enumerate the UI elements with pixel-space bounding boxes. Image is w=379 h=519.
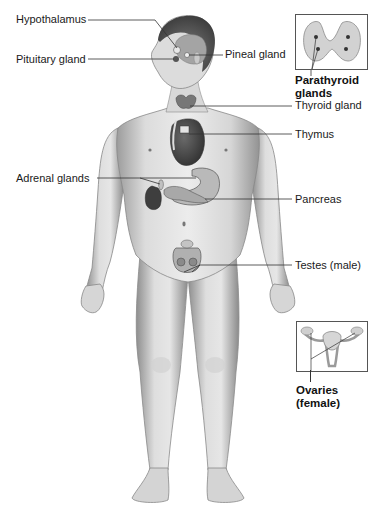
label-testes: Testes (male) xyxy=(295,259,361,272)
label-parathyroid-line1: Parathyroid xyxy=(295,73,359,87)
label-parathyroid-line2: glands xyxy=(295,86,332,100)
label-pancreas: Pancreas xyxy=(295,193,341,206)
label-ovaries-line2: (female) xyxy=(296,396,340,410)
label-hypothalamus: Hypothalamus xyxy=(16,13,86,26)
label-adrenal-glands: Adrenal glands xyxy=(16,172,89,185)
legs xyxy=(132,255,244,502)
label-pineal-gland: Pineal gland xyxy=(225,48,286,61)
label-thymus: Thymus xyxy=(295,128,334,141)
endocrine-diagram: Hypothalamus Pituitary gland Pineal glan… xyxy=(0,0,379,519)
parathyroid-inset xyxy=(295,14,368,70)
label-ovaries-line1: Ovaries xyxy=(296,383,338,397)
ovaries-inset xyxy=(296,321,368,372)
uterus-ovaries-illustration xyxy=(297,322,367,371)
leader-ovaries xyxy=(310,370,311,382)
label-pituitary-gland: Pituitary gland xyxy=(16,53,86,66)
thyroid-posterior-illustration xyxy=(296,15,367,69)
label-thyroid-gland: Thyroid gland xyxy=(295,99,362,112)
head xyxy=(151,16,215,89)
